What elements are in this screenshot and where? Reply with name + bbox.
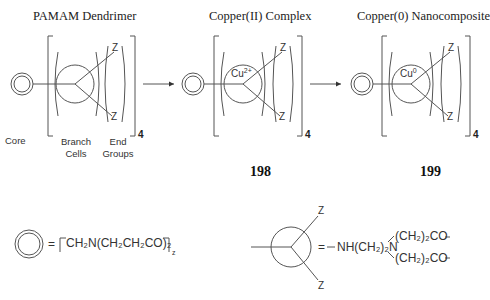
- generation-subscript: 4: [473, 129, 479, 140]
- branch-equals: =: [318, 240, 325, 254]
- label-core: Core: [5, 135, 26, 147]
- branch-formula: NH(CH₂)₂N: [337, 240, 398, 254]
- core-formula-subscript: z: [172, 249, 176, 256]
- branch-arm-top: (CH₂)₂CO: [395, 229, 448, 243]
- core-formula: CH₂N(CH₂CH₂CO)₂: [66, 236, 171, 250]
- copper-0-label: Cu0: [400, 67, 417, 79]
- label-branch-cells: Branch Cells: [59, 136, 93, 160]
- generation-subscript: 4: [138, 129, 144, 140]
- panel-pamam-dendrimer: [11, 36, 174, 136]
- generation-subscript: 4: [305, 129, 311, 140]
- end-group-z-top: Z: [280, 42, 286, 53]
- panel-copper-ii-complex: [182, 36, 341, 136]
- copper-ii-label: Cu2+: [231, 67, 252, 79]
- end-group-z-bottom: Z: [111, 111, 117, 122]
- label-end-groups: End Groups: [101, 136, 135, 160]
- core-equals: =: [48, 237, 55, 251]
- legend-z-bottom: Z: [318, 280, 324, 291]
- end-group-z-bottom: Z: [279, 111, 285, 122]
- legend-z-top: Z: [318, 205, 324, 216]
- panel-title-copper-ii: Copper(II) Complex: [209, 9, 311, 24]
- compound-number-199: 199: [420, 164, 441, 180]
- branch-arm-bottom: (CH₂)₂CO: [395, 251, 448, 265]
- end-group-z-top: Z: [448, 42, 454, 53]
- panel-title-copper-0: Copper(0) Nanocomposite: [357, 9, 490, 24]
- panel-title-pamam: PAMAM Dendrimer: [33, 9, 136, 24]
- compound-number-198: 198: [250, 164, 271, 180]
- end-group-z-bottom: Z: [447, 111, 453, 122]
- end-group-z-top: Z: [112, 42, 118, 53]
